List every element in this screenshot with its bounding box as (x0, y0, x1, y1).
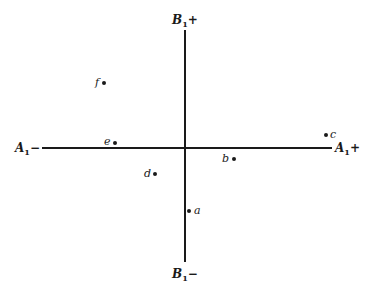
point-d-label: d (144, 168, 151, 180)
point-f-label: f (95, 77, 99, 89)
point-a-label: a (194, 205, 201, 217)
point-b (232, 157, 236, 161)
point-f (102, 81, 106, 85)
point-c (324, 133, 328, 137)
point-a (187, 209, 191, 213)
axis-a1 (42, 147, 332, 149)
axis-b1 (184, 30, 186, 262)
point-e-label: e (104, 136, 111, 148)
point-d (153, 172, 157, 176)
label-b1-minus: B1− (172, 267, 198, 285)
label-b1-plus: B1+ (172, 13, 198, 31)
point-e (113, 141, 117, 145)
label-a1-minus: A1− (15, 141, 40, 159)
label-a1-plus: A1+ (335, 141, 360, 159)
point-b-label: b (222, 153, 229, 165)
point-c-label: c (330, 129, 336, 141)
